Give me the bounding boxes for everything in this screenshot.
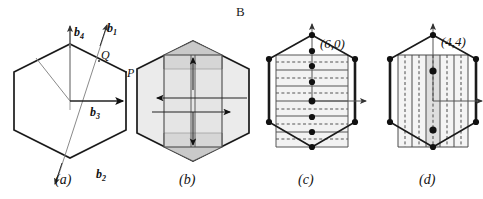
label-vector-b1: b1	[107, 21, 117, 37]
panel-c-graphics	[266, 24, 366, 150]
caption-panel-b: (b)	[179, 172, 195, 188]
caption-panel-a: (a)	[55, 172, 71, 188]
label-vector-b3: b3	[90, 105, 100, 121]
panel-a-point-Q-marker	[98, 60, 100, 62]
panel-d-graphics	[387, 24, 482, 150]
figure-container: B	[0, 0, 483, 199]
panel-b-graphics	[137, 41, 249, 161]
panel-a-ray-center-upperleft	[36, 58, 70, 101]
label-point-q: Q	[101, 48, 110, 63]
label-point-p: P	[127, 66, 134, 81]
label-vector-b2-sub: 2	[102, 174, 106, 183]
label-vector-b2: b2	[96, 167, 106, 183]
caption-panel-d: (d)	[419, 172, 435, 188]
figure-canvas	[0, 0, 483, 199]
panel-a-vector-b1-arrow	[100, 25, 107, 46]
label-vector-b4: b4	[74, 25, 84, 41]
label-vector-b3-sub: 3	[96, 112, 100, 121]
caption-panel-c: (c)	[298, 172, 314, 188]
label-vector-b4-sub: 4	[80, 32, 84, 41]
label-chirality-6-0: (6,0)	[320, 36, 345, 52]
label-vector-b1-sub: 1	[113, 28, 117, 37]
label-chirality-4-4: (4,4)	[441, 34, 466, 50]
